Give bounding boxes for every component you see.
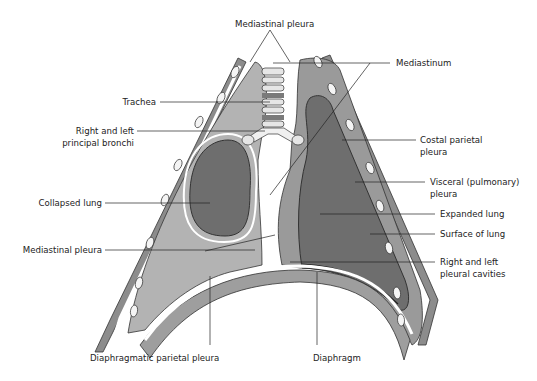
label-visceral-line2: pleura: [430, 188, 457, 200]
label-mediastinal-pleura-left: Mediastinal pleura: [0, 244, 102, 256]
label-bronchi-line1: Right and left: [40, 125, 134, 137]
pleura-diagram: Mediastinal pleura Trachea Right and lef…: [0, 0, 537, 381]
label-costal-line2: pleura: [420, 146, 447, 158]
label-cavities-line2: pleural cavities: [440, 268, 505, 280]
label-mediastinal-pleura-top: Mediastinal pleura: [235, 18, 314, 30]
label-costal-line1: Costal parietal: [420, 134, 482, 146]
label-diaphragmatic-parietal-pleura: Diaphragmatic parietal pleura: [90, 352, 219, 364]
label-trachea: Trachea: [100, 96, 156, 108]
label-diaphragm: Diaphragm: [313, 352, 361, 364]
label-bronchi-line2: principal bronchi: [40, 137, 134, 149]
label-expanded-lung: Expanded lung: [440, 208, 504, 220]
label-mediastinum: Mediastinum: [396, 57, 451, 69]
label-cavities-line1: Right and left: [440, 256, 498, 268]
label-visceral-line1: Visceral (pulmonary): [430, 176, 519, 188]
label-surface-of-lung: Surface of lung: [440, 228, 505, 240]
label-collapsed-lung: Collapsed lung: [10, 197, 102, 209]
